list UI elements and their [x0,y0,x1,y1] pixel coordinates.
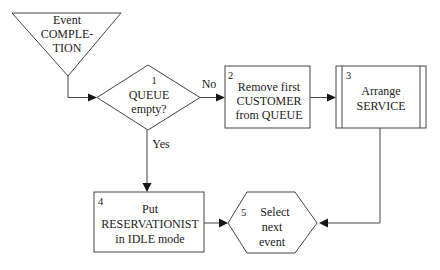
node-arrange-service: 3 Arrange SERVICE [336,66,426,128]
node-label-line: TION [53,41,82,55]
connector-line [328,128,380,223]
node-label-line: COMPLE- [41,27,94,41]
flowchart-canvas: Event COMPLE- TION 1 QUEUE empty? No 2 R… [0,0,440,270]
flowchart-svg: Event COMPLE- TION 1 QUEUE empty? No 2 R… [0,0,440,270]
connector-line [68,76,89,98]
node-number: 4 [98,196,104,207]
node-label-line: Remove first [238,80,301,94]
node-number: 5 [241,207,246,218]
node-label-line: event [259,235,286,249]
edge-label-yes: Yes [152,137,170,151]
node-number: 1 [151,75,156,86]
node-label-line: RESERVATIONIST [101,217,199,231]
node-label-line: next [262,220,283,234]
node-label-line: Event [53,13,82,27]
node-label-line: Select [260,205,290,219]
node-number: 2 [228,70,233,81]
edge-start-to-queue-empty [68,76,97,102]
arrowhead-right-icon [216,94,225,102]
edge-no: No [200,77,225,102]
arrowhead-right-icon [327,94,336,102]
node-select-next-event: 5 Select next event [228,192,317,253]
edge-remove-to-arrange [310,94,336,102]
node-label-line: empty? [131,102,166,116]
node-event-completion: Event COMPLE- TION [12,13,121,76]
arrowhead-right-icon [219,219,228,228]
node-queue-empty: 1 QUEUE empty? [97,65,200,130]
node-label-line: SERVICE [356,99,405,113]
node-number: 3 [346,70,351,81]
node-remove-customer: 2 Remove first CUSTOMER from QUEUE [225,66,310,128]
node-label-line: QUEUE [129,88,170,102]
node-label-line: from QUEUE [236,108,303,122]
edge-arrange-to-select [319,128,380,228]
edge-label-no: No [202,77,217,91]
node-label-line: CUSTOMER [236,94,301,108]
edge-put-to-select [204,219,228,228]
arrowhead-left-icon [319,219,328,228]
node-label-line: Put [142,202,159,216]
arrowhead-right-icon [88,94,97,102]
edge-yes: Yes [143,130,171,192]
arrowhead-down-icon [143,183,152,192]
node-label-line: in IDLE mode [115,232,184,246]
node-put-reservationist: 4 Put RESERVATIONIST in IDLE mode [94,192,204,252]
node-label-line: Arrange [361,84,400,98]
